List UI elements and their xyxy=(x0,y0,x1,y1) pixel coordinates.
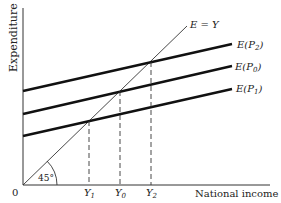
svg-text:Y2: Y2 xyxy=(146,187,158,200)
svg-text:E(P0): E(P0) xyxy=(234,61,261,74)
svg-text:Y0: Y0 xyxy=(115,187,127,200)
keynesian-cross-diagram: Expenditure National income 0 45° E = Y … xyxy=(0,0,281,203)
svg-text:E(P2): E(P2) xyxy=(236,39,263,52)
tick-y0: Y0 xyxy=(115,187,127,200)
curve-e-p0 xyxy=(23,66,232,114)
curve-label-e-p2: E(P2) xyxy=(236,39,263,52)
svg-text:E(P1): E(P1) xyxy=(235,83,262,96)
curve-label-e-p0: E(P0) xyxy=(234,61,261,74)
x-axis-label: National income xyxy=(195,188,278,199)
diagonal-label: E = Y xyxy=(189,19,220,30)
tick-y2: Y2 xyxy=(146,187,158,200)
curve-label-e-p1: E(P1) xyxy=(235,83,262,96)
angle-label: 45° xyxy=(38,173,54,183)
y-axis-label: Expenditure xyxy=(7,3,20,72)
tick-y1: Y1 xyxy=(84,187,95,200)
svg-text:Y1: Y1 xyxy=(84,187,95,200)
curve-e-p1 xyxy=(23,89,232,136)
origin-label: 0 xyxy=(12,187,18,198)
